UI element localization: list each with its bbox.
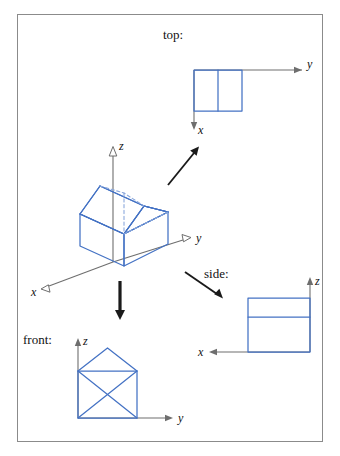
main-y-arrowhead [182,235,191,242]
main-z-arrowhead [109,147,117,157]
house-roof-left-slope [80,186,144,234]
top-view-label: top: [163,27,183,42]
top-view-y-arrowhead [294,67,302,73]
arrow-to-front-view-head [115,310,125,320]
main-x-axis [49,262,113,286]
main-x-arrowhead [41,285,50,292]
front-view-label: front: [23,332,52,347]
projection-arrows-group [115,147,223,321]
house-left-face [80,214,124,266]
arrow-to-top-view-head [190,147,199,156]
arrow-to-top-view [168,153,194,185]
front-view-z-label: z [82,334,88,348]
side-view-x-arrowhead [209,349,217,355]
arrow-to-side-view-head [214,289,223,299]
isometric-view-group: z y x [30,139,202,299]
house-hidden-diagonal [124,212,168,234]
figure-border [18,15,323,442]
front-view-y-arrowhead [165,415,173,421]
side-view-outline [248,298,310,352]
top-view-x-label: x [197,123,204,137]
front-view-group: front: z y [23,332,184,425]
main-y-label: y [195,231,202,245]
top-view-x-arrowhead [191,122,197,130]
front-view-y-label: y [177,411,184,425]
side-view-z-arrowhead [307,277,313,285]
front-view-z-arrowhead [75,338,81,346]
projection-diagram: top: y x z y x [0,0,340,456]
side-view-x-label: x [197,345,204,359]
main-z-label: z [118,139,124,153]
top-view-y-label: y [306,57,313,71]
side-view-label: side: [204,266,229,281]
side-view-z-label: z [314,274,320,288]
main-x-label: x [30,285,37,299]
side-view-group: side: z x [197,266,320,359]
top-view-group: top: y x [163,27,313,137]
house-right-face [124,212,168,266]
house-gable-right [124,206,168,234]
front-view-roof [78,348,137,371]
house-gable-left [80,186,100,214]
